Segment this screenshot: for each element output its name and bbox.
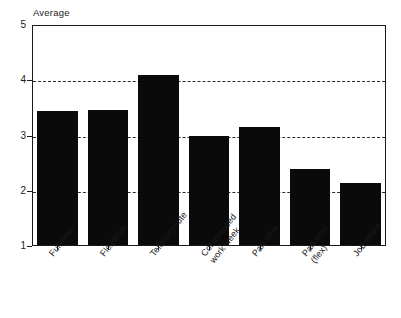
bars-container [33, 26, 385, 245]
y-tick-label-2: 2 [4, 185, 26, 196]
y-tick-label-4: 4 [4, 74, 26, 85]
bar [37, 111, 78, 245]
bar-chart: Average 12345 Full-timeFlexitimeTelecomm… [0, 0, 401, 318]
plot-area [32, 25, 386, 246]
y-axis-title: Average [33, 7, 70, 18]
y-tick-mark-1 [27, 246, 32, 247]
y-tick-label-1: 1 [4, 240, 26, 251]
y-tick-label-3: 3 [4, 130, 26, 141]
y-tick-label-5: 5 [4, 19, 26, 30]
